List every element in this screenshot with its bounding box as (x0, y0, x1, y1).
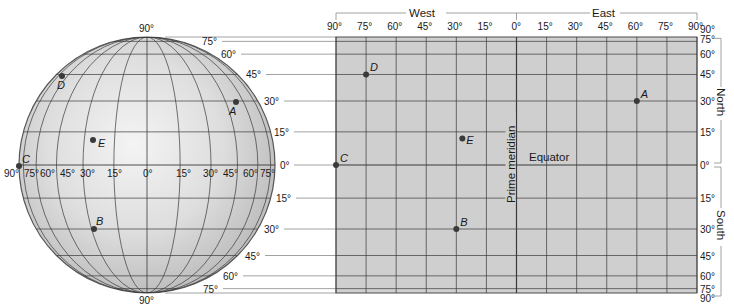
west-label: West (409, 7, 436, 19)
globe-point-label: D (57, 79, 65, 91)
map-longitude-label: 60° (387, 21, 402, 32)
map-latitude-label: 60° (700, 271, 715, 282)
globe-point-label: C (22, 153, 30, 165)
globe-longitude-label: 15° (107, 168, 122, 179)
map-longitude-label: 0° (512, 21, 522, 32)
map-point-b (453, 226, 459, 232)
map-latitude-label: 15° (700, 127, 715, 138)
globe-latitude-label: 30° (264, 224, 279, 235)
globe-latitude-label: 0° (280, 160, 290, 171)
globe-point-label: B (96, 215, 103, 227)
globe-longitude-label: 60° (40, 168, 55, 179)
globe-longitude-label: 45° (223, 168, 238, 179)
globe-latitude-label: 75° (203, 284, 218, 295)
globe-longitude-label: 0° (143, 168, 153, 179)
map-point-e (459, 135, 465, 141)
map-longitude-label: 45° (598, 21, 613, 32)
map-longitude-label: 45° (417, 21, 432, 32)
east-label: East (592, 7, 616, 19)
map-latitude-label: 60° (700, 49, 715, 60)
latitude-longitude-diagram: 90°90°90°75°60°45°30°15°0°15°30°45°60°75… (0, 0, 734, 305)
globe-longitude-label: 75° (260, 168, 275, 179)
map-latitude-label: 45° (700, 69, 715, 80)
globe-longitude-label: 90° (4, 168, 19, 179)
globe-latitude-label: 60° (223, 271, 238, 282)
globe-longitude-label: 45° (60, 168, 75, 179)
north-label: North (715, 88, 727, 116)
globe (16, 37, 275, 293)
map-latitude-label: 90° (700, 293, 715, 304)
globe-point-e (90, 137, 96, 143)
globe-south-pole-label: 90° (139, 295, 154, 305)
map-latitude-label: 75° (700, 34, 715, 45)
globe-longitude-label: 30° (80, 168, 95, 179)
globe-latitude-label: 60° (221, 49, 236, 60)
map-longitude-label: 60° (628, 21, 643, 32)
globe-latitude-label: 30° (264, 96, 279, 107)
map-latitude-label: 45° (700, 251, 715, 262)
map-latitude-label: 15° (700, 193, 715, 204)
map-point-label: B (460, 216, 467, 228)
globe-latitude-label: 45° (246, 69, 261, 80)
map-point-label: D (370, 61, 378, 73)
globe-point-label: E (98, 137, 106, 149)
globe-latitude-label: 75° (202, 36, 217, 47)
map-longitude-label: 15° (477, 21, 492, 32)
map-point-label: A (640, 88, 648, 100)
figure-canvas: 90°90°90°75°60°45°30°15°0°15°30°45°60°75… (0, 0, 734, 305)
globe-latitude-label: 15° (276, 193, 291, 204)
map-point-d (363, 71, 369, 77)
map-longitude-label: 75° (658, 21, 673, 32)
globe-longitude-label: 75° (24, 168, 39, 179)
map-point-label: E (466, 134, 474, 146)
globe-longitude-label: 60° (243, 168, 258, 179)
map-longitude-label: 30° (447, 21, 462, 32)
globe-latitude-label: 45° (245, 251, 260, 262)
globe-latitude-label: 15° (274, 127, 289, 138)
map-longitude-label: 90° (327, 21, 342, 32)
map-point-label: C (340, 152, 348, 164)
map-point-c (333, 162, 339, 168)
equator-label: Equator (529, 151, 569, 163)
south-label: South (715, 210, 727, 240)
map-longitude-label: 15° (538, 21, 553, 32)
map-point-a (634, 98, 640, 104)
map-longitude-label: 30° (568, 21, 583, 32)
prime-meridian-label: Prime meridian (505, 126, 517, 203)
map-latitude-label: 30° (700, 224, 715, 235)
globe-longitude-label: 15° (176, 168, 191, 179)
globe-point-label: A (228, 105, 236, 117)
globe-north-pole-label: 90° (139, 23, 154, 34)
map-latitude-label: 30° (700, 96, 715, 107)
map-latitude-label: 0° (700, 160, 710, 171)
globe-longitude-label: 30° (203, 168, 218, 179)
map-longitude-label: 75° (357, 21, 372, 32)
